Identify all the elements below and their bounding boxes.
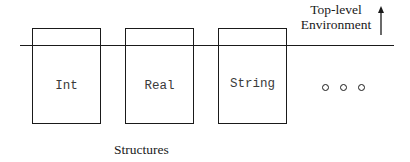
structure-label: Real	[126, 79, 193, 93]
arrow-up-icon	[375, 6, 387, 36]
ellipsis-dot-icon	[322, 84, 329, 91]
structure-label: Int	[33, 79, 100, 93]
structures-diagram: Top-level Environment Int Real String St…	[0, 0, 410, 162]
structures-label: Structures	[114, 142, 169, 158]
structure-box-string: String	[218, 28, 287, 124]
ellipsis-dot-icon	[358, 84, 365, 91]
env-label-line1: Top-level	[300, 2, 372, 17]
structure-box-int: Int	[32, 28, 101, 124]
structure-box-real: Real	[125, 28, 194, 124]
env-label-line2: Environment	[300, 17, 372, 32]
top-level-environment-label: Top-level Environment	[300, 2, 372, 32]
ellipsis-dot-icon	[340, 84, 347, 91]
structure-label: String	[219, 77, 286, 91]
